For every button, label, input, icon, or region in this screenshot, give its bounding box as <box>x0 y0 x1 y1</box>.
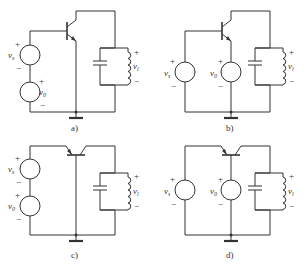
source-vs-icon <box>20 45 40 65</box>
svg-text:vs: vs <box>164 186 171 197</box>
svg-text:+: + <box>15 39 20 49</box>
svg-text:vl: vl <box>133 61 139 72</box>
svg-text:+: + <box>134 171 139 181</box>
svg-text:−: − <box>218 199 223 209</box>
svg-text:−: − <box>16 177 21 187</box>
svg-text:+: + <box>289 171 294 181</box>
caption-c: c) <box>71 250 78 260</box>
svg-text:vs: vs <box>8 50 15 61</box>
source-vs-icon <box>175 62 195 82</box>
svg-text:−: − <box>134 201 139 211</box>
svg-text:−: − <box>289 201 294 211</box>
caption-a: a) <box>71 123 78 133</box>
svg-text:vs: vs <box>8 164 15 175</box>
svg-text:+: + <box>218 174 223 184</box>
panel-a: + vs − + v0 − + vl − a) <box>8 11 139 133</box>
svg-text:vs: vs <box>164 68 171 79</box>
source-v0-icon <box>20 196 40 216</box>
svg-text:+: + <box>15 153 20 163</box>
svg-text:vl: vl <box>288 61 294 72</box>
panel-d: + vs − + v0 − + vl − d) <box>164 146 294 260</box>
svg-text:+: + <box>39 76 44 86</box>
source-v0-icon <box>221 180 241 200</box>
svg-text:v0: v0 <box>210 186 217 197</box>
svg-text:+: + <box>289 47 294 57</box>
circuit-diagrams: + vs − + v0 − + vl − a) + vs − + v0 − + … <box>0 0 305 274</box>
svg-text:+: + <box>170 174 175 184</box>
caption-d: d) <box>226 250 234 260</box>
svg-text:−: − <box>171 81 176 91</box>
svg-text:+: + <box>134 47 139 57</box>
svg-text:+: + <box>170 56 175 66</box>
svg-text:+: + <box>15 190 20 200</box>
svg-text:−: − <box>171 199 176 209</box>
panel-c: + vs − + v0 − + vl − c) <box>8 146 139 260</box>
svg-text:vl: vl <box>133 186 139 197</box>
source-vs-icon <box>175 180 195 200</box>
svg-text:v0: v0 <box>8 201 15 212</box>
svg-text:−: − <box>40 100 45 110</box>
svg-text:vl: vl <box>288 186 294 197</box>
svg-text:v0: v0 <box>39 87 46 98</box>
caption-b: b) <box>226 123 234 133</box>
svg-text:−: − <box>16 214 21 224</box>
svg-text:+: + <box>218 56 223 66</box>
svg-text:−: − <box>218 81 223 91</box>
source-v0-icon <box>20 82 40 102</box>
panel-b: + vs − + v0 − + vl − b) <box>164 11 294 133</box>
svg-text:−: − <box>134 76 139 86</box>
source-vs-icon <box>20 159 40 179</box>
svg-text:−: − <box>289 76 294 86</box>
svg-text:−: − <box>16 63 21 73</box>
svg-text:v0: v0 <box>210 68 217 79</box>
source-v0-icon <box>221 62 241 82</box>
